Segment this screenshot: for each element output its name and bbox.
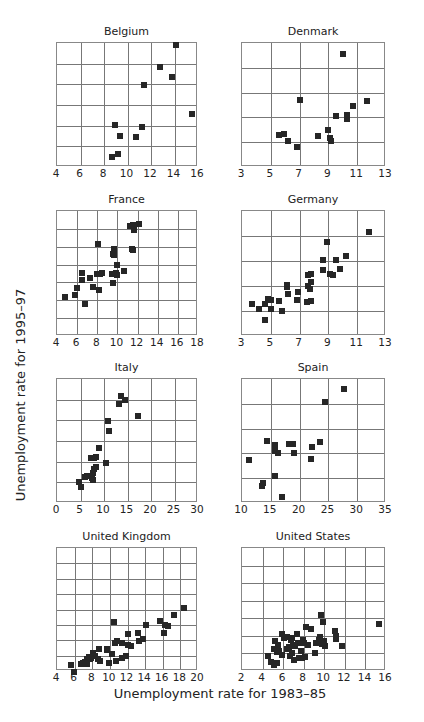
x-tick-label: 16 — [378, 671, 391, 683]
data-point-marker — [333, 636, 339, 642]
data-point-marker — [93, 454, 99, 460]
x-tick-label: 20 — [190, 671, 203, 683]
gridline-vertical — [271, 379, 272, 501]
x-tick-label: 14 — [137, 671, 150, 683]
gridline-horizontal — [242, 601, 384, 602]
gridline-horizontal — [242, 236, 384, 237]
x-tick-label: 11 — [350, 336, 363, 348]
x-tick-label: 9 — [324, 167, 331, 179]
data-point-marker — [123, 653, 129, 659]
data-point-marker — [320, 619, 326, 625]
gridline-horizontal — [242, 566, 384, 567]
plot-area — [56, 378, 197, 502]
data-point-marker — [78, 484, 84, 490]
data-point-marker — [116, 401, 122, 407]
data-point-marker — [131, 227, 137, 233]
data-point-marker — [322, 399, 328, 405]
data-point-marker — [173, 42, 179, 48]
data-point-marker — [79, 270, 85, 276]
panel-title: United Kingdom — [56, 530, 197, 543]
x-tick-label: 4 — [258, 671, 265, 683]
gridline-horizontal — [57, 563, 196, 564]
data-point-marker — [290, 441, 296, 447]
data-point-marker — [294, 144, 300, 150]
data-point-marker — [275, 450, 281, 456]
data-point-marker — [68, 662, 74, 668]
data-point-marker — [333, 257, 339, 263]
x-tick-label: 16 — [155, 671, 168, 683]
data-point-marker — [99, 270, 105, 276]
x-tick-label: 4 — [53, 336, 60, 348]
data-point-marker — [136, 221, 142, 227]
data-point-marker — [169, 74, 175, 80]
data-point-marker — [114, 262, 120, 268]
x-tick-label: 16 — [190, 167, 203, 179]
data-point-marker — [302, 654, 308, 660]
x-tick-label: 5 — [76, 503, 83, 515]
gridline-vertical — [271, 43, 272, 165]
plot-area — [241, 547, 385, 670]
data-point-marker — [320, 267, 326, 273]
gridline-horizontal — [57, 265, 196, 266]
plot-area — [241, 210, 385, 335]
data-point-marker — [272, 442, 278, 448]
x-tick-label: 3 — [238, 167, 245, 179]
x-tick-label: 25 — [167, 503, 180, 515]
data-point-marker — [87, 275, 93, 281]
gridline-vertical — [300, 43, 301, 165]
data-point-marker — [289, 650, 295, 656]
data-point-marker — [139, 124, 145, 130]
gridline-vertical — [271, 211, 272, 334]
x-tick-label: 35 — [378, 503, 391, 515]
gridline-horizontal — [57, 420, 196, 421]
x-tick-label: 10 — [96, 503, 109, 515]
data-point-marker — [90, 477, 96, 483]
plot-area — [56, 547, 197, 670]
x-tick-label: 30 — [190, 503, 203, 515]
x-tick-label: 14 — [358, 671, 371, 683]
data-point-marker — [350, 103, 356, 109]
x-axis-label-text: Unemployment rate for 1983–85 — [114, 686, 327, 701]
gridline-horizontal — [57, 126, 196, 127]
x-tick-label: 8 — [88, 671, 95, 683]
gridline-horizontal — [57, 579, 196, 580]
gridline-horizontal — [57, 594, 196, 595]
data-point-marker — [308, 271, 314, 277]
data-point-marker — [285, 138, 291, 144]
data-point-marker — [337, 266, 343, 272]
gridline-horizontal — [242, 117, 384, 118]
data-point-marker — [122, 397, 128, 403]
x-tick-label: 4 — [53, 671, 60, 683]
x-tick-label: 12 — [130, 336, 143, 348]
data-point-marker — [143, 622, 149, 628]
plot-area — [56, 210, 197, 335]
x-tick-label: 3 — [238, 336, 245, 348]
data-point-marker — [272, 473, 278, 479]
data-point-marker — [264, 438, 270, 444]
data-point-marker — [133, 134, 139, 140]
data-point-marker — [344, 112, 350, 118]
gridline-vertical — [163, 548, 164, 669]
gridline-horizontal — [242, 429, 384, 430]
data-point-marker — [82, 301, 88, 307]
data-point-marker — [330, 272, 336, 278]
data-point-marker — [103, 460, 109, 466]
data-point-marker — [298, 648, 304, 654]
x-tick-label: 8 — [299, 671, 306, 683]
gridline-vertical — [145, 548, 146, 669]
data-point-marker — [171, 612, 177, 618]
data-point-marker — [112, 122, 118, 128]
data-point-marker — [376, 621, 382, 627]
data-point-marker — [181, 605, 187, 611]
x-axis-label: Unemployment rate for 1983–85 — [0, 686, 424, 701]
gridline-horizontal — [57, 610, 196, 611]
data-point-marker — [328, 138, 334, 144]
data-point-marker — [111, 619, 117, 625]
x-tick-label: 10 — [110, 336, 123, 348]
gridline-horizontal — [57, 462, 196, 463]
data-point-marker — [308, 626, 314, 632]
x-tick-label: 11 — [350, 167, 363, 179]
panel-title: United States — [241, 530, 385, 543]
gridline-horizontal — [242, 583, 384, 584]
gridline-horizontal — [242, 618, 384, 619]
